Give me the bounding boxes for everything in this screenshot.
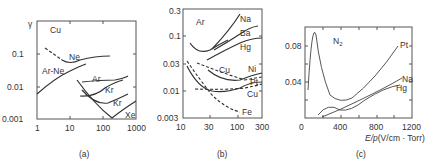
panel-b: 0.3 0.1 0.03 0.01 0.003 10 30 100 300 Ar…	[157, 6, 269, 159]
panel-a-xtick: 10	[65, 123, 75, 133]
panel-a-ylabel: γ	[28, 19, 33, 29]
panel-c-xlabel: E/p(V/cm · Torr)	[365, 133, 425, 143]
panel-c-note: N2	[333, 36, 343, 47]
panel-c-ytick: 0.04	[285, 77, 302, 87]
label-cu-upper: Cu	[219, 65, 230, 75]
panel-b-xtick: 10	[176, 122, 186, 132]
panel-a-note: Cu	[50, 25, 61, 35]
label-xe: Xe	[125, 110, 136, 120]
panel-a-ytick: 0.1	[12, 49, 24, 59]
label-ba: Ba	[240, 28, 251, 38]
label-cu-lower: Cu	[247, 89, 258, 99]
panel-b-xtick: 30	[204, 122, 214, 132]
panel-a-xtick: 1	[35, 123, 40, 133]
panel-b-xtick: 100	[230, 122, 244, 132]
panel-a-xtick: 1000	[127, 123, 146, 133]
panel-a-caption: (a)	[79, 149, 90, 159]
panel-c-xtick: 800	[369, 122, 383, 132]
panel-c-xtick: 0	[299, 122, 304, 132]
label-pt-c: Pt	[400, 40, 409, 50]
panel-a-xtick: 100	[96, 123, 110, 133]
panel-c-ytick: 0.08	[285, 41, 302, 51]
panel-c: 0.08 0.04 0 400 800 1200 E/p(V/cm · Torr…	[285, 27, 425, 159]
label-fe: Fe	[242, 107, 252, 117]
panel-b-ytick: 0.01	[163, 86, 180, 96]
panel-b-ytick: 0.1	[169, 31, 181, 41]
label-kr-1: Kr	[105, 85, 114, 95]
panel-b-caption: (b)	[217, 149, 228, 159]
curve-ne-dashed	[45, 48, 62, 60]
label-ni: Ni	[248, 64, 256, 74]
label-na: Na	[240, 14, 251, 24]
curve-kr-1	[80, 80, 123, 96]
label-kr-2: Kr	[113, 98, 122, 108]
label-ne: Ne	[69, 52, 80, 62]
panel-b-note: Ar	[196, 17, 205, 27]
curve-ba	[214, 26, 258, 50]
panel-a: γ Cu 0.1 0.01 0.001 1 10 100 1000 Ne Ar-…	[2, 19, 146, 159]
panel-b-ytick: 0.3	[169, 6, 181, 16]
panel-c-caption: (c)	[356, 149, 366, 159]
label-ar-ne: Ar-Ne	[42, 66, 64, 76]
panel-b-xtick: 300	[255, 122, 269, 132]
panel-a-ytick: 0.001	[2, 114, 24, 124]
curve-pt-c	[308, 32, 398, 100]
panel-c-xtick: 400	[333, 122, 347, 132]
figure: γ Cu 0.1 0.01 0.001 1 10 100 1000 Ne Ar-…	[0, 0, 431, 168]
panel-a-ytick: 0.01	[7, 82, 24, 92]
label-hg-c: Hg	[396, 83, 407, 93]
panel-c-xtick: 1200	[402, 122, 421, 132]
curve-na	[212, 14, 240, 49]
panel-b-ytick: 0.03	[163, 59, 180, 69]
label-hg-b: Hg	[240, 42, 251, 52]
label-ar: Ar	[92, 74, 101, 84]
